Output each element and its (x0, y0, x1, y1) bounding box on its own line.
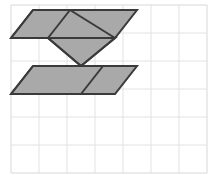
figure-canvas (0, 0, 219, 175)
figure-layer (11, 10, 137, 94)
figure-svg (0, 0, 219, 175)
middle-downward-triangle (48, 38, 115, 66)
